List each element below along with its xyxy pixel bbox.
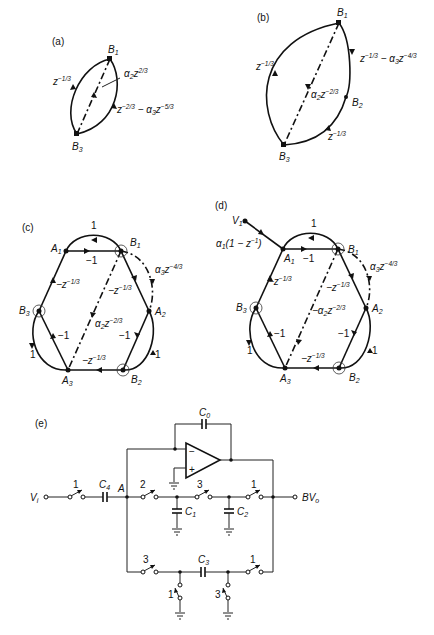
label-c3: C3 bbox=[198, 554, 209, 566]
switch-phase1-ground bbox=[174, 583, 182, 600]
switch-label: 1 bbox=[73, 479, 79, 490]
node-a2 bbox=[364, 306, 369, 311]
arrow-down-dashed bbox=[91, 92, 97, 98]
label-a1: A1 bbox=[50, 243, 62, 255]
node-b1 bbox=[336, 247, 341, 252]
panel-c: (c) bbox=[19, 220, 183, 387]
label-a3: A3 bbox=[279, 373, 291, 385]
label-b3: B3 bbox=[19, 305, 30, 317]
switch-phase3 bbox=[195, 490, 212, 499]
switch-phase3-bottom bbox=[141, 565, 158, 574]
gain-m1-a3b3: −1 bbox=[58, 330, 70, 341]
edge-b3-b1 bbox=[71, 59, 110, 134]
label-c2: C2 bbox=[237, 506, 248, 518]
figure-svg: (a) B1 B3 z−1/3 α2z2/3 z−2/3 − α3z−5/3 (… bbox=[0, 0, 434, 635]
edge-b2-b3 bbox=[284, 97, 346, 145]
label-a: A bbox=[117, 483, 125, 494]
node-b1 bbox=[107, 56, 112, 61]
label-b3: B3 bbox=[72, 141, 83, 153]
gain-alpha2: α2z−2/3 bbox=[95, 317, 123, 330]
edge-b1-a3-dashed bbox=[68, 251, 121, 370]
gain-input: α1(1 − z−1) bbox=[216, 237, 262, 250]
gain-1-b2a2: 1 bbox=[155, 349, 161, 360]
gain-malpha2: −α2z−2/3 bbox=[312, 304, 346, 317]
label-b1: B1 bbox=[108, 44, 119, 56]
arrow-a1-b1 bbox=[84, 248, 90, 254]
label-b3: B3 bbox=[279, 151, 290, 163]
panel-e-label: (e) bbox=[35, 418, 47, 429]
switch-label: 3 bbox=[143, 554, 149, 565]
panel-b: (b) B1 B2 B3 z−1/3 α2z−2/3 z−1/3 − α3z−4… bbox=[255, 7, 417, 163]
arrow-up bbox=[70, 84, 76, 90]
gain-z-1-3-minus-alpha3: z−1/3 − α3z−4/3 bbox=[359, 52, 417, 65]
arrow-up bbox=[272, 70, 278, 76]
label-b3: B3 bbox=[236, 302, 247, 314]
panel-c-label: (c) bbox=[22, 222, 34, 233]
switch-label: 2 bbox=[140, 479, 146, 490]
arrow-top-arc bbox=[91, 237, 97, 243]
switch-phase3-ground bbox=[222, 583, 230, 600]
node-v1 bbox=[243, 219, 248, 224]
label-b1: B1 bbox=[348, 244, 359, 256]
edge-b1-b3 bbox=[77, 59, 117, 134]
node-b3 bbox=[254, 306, 259, 311]
label-b2: B2 bbox=[352, 97, 363, 109]
switch-phase1-bottom bbox=[246, 565, 263, 574]
arrow-down-right bbox=[349, 49, 355, 55]
wire-a-to-minus bbox=[127, 449, 186, 497]
label-b2: B2 bbox=[131, 374, 142, 386]
gain-mz-b1a2: −z−1/3 bbox=[326, 281, 350, 293]
label-a2: A2 bbox=[154, 306, 166, 318]
gain-1-top: 1 bbox=[91, 220, 97, 231]
panel-a-label: (a) bbox=[52, 36, 64, 47]
terminal-bvo bbox=[293, 495, 297, 499]
node-b2 bbox=[337, 366, 342, 371]
label-b1: B1 bbox=[130, 237, 141, 249]
label-a2: A2 bbox=[371, 303, 383, 315]
switch-phase1-input bbox=[68, 490, 85, 499]
node-b3 bbox=[281, 142, 286, 147]
opamp-plus: + bbox=[189, 464, 195, 475]
node-a1 bbox=[64, 249, 69, 254]
arrow-b2-a3 bbox=[313, 365, 319, 371]
node-b2 bbox=[121, 368, 126, 373]
node-a3 bbox=[283, 366, 288, 371]
arrow-top-arc bbox=[308, 235, 314, 241]
gain-m1-a1b1: −1 bbox=[303, 253, 315, 264]
gain-1-b3a3: 1 bbox=[247, 345, 253, 356]
gain-1-b3a3: 1 bbox=[30, 349, 36, 360]
ground-icon bbox=[224, 529, 234, 535]
arrow-b2-a3 bbox=[96, 367, 102, 373]
switch-label: 1 bbox=[168, 589, 174, 600]
gain-mz-b3a1: −z−1/3 bbox=[56, 278, 80, 290]
gain-1-top: 1 bbox=[311, 218, 317, 229]
edge-b1-a1 bbox=[66, 235, 121, 251]
node-a1 bbox=[281, 247, 286, 252]
gain-z-1-3: z−1/3 bbox=[52, 75, 71, 87]
wire-plus-ground bbox=[174, 468, 186, 482]
gain-mz-b2a3: −z−1/3 bbox=[82, 354, 106, 366]
switch-phase1-output bbox=[246, 490, 263, 499]
node-out bbox=[271, 495, 275, 499]
panel-a: (a) B1 B3 z−1/3 α2z2/3 z−2/3 − α3z−5/3 bbox=[52, 36, 174, 153]
gain-mz-b3a1: −z−1/3 bbox=[268, 275, 292, 287]
label-c1: C1 bbox=[185, 506, 196, 518]
label-v1: V1 bbox=[232, 215, 243, 227]
arrow-a1-b1 bbox=[301, 246, 307, 252]
gain-alpha3: α3z−4/3 bbox=[155, 263, 183, 276]
node-b3 bbox=[74, 131, 79, 136]
gain-m1-a1b1: −1 bbox=[86, 255, 98, 266]
gain-alpha2-z: α2z2/3 bbox=[124, 67, 148, 80]
edge-b1-a1 bbox=[283, 233, 338, 249]
label-b1: B1 bbox=[337, 7, 348, 19]
switch-label: 3 bbox=[197, 479, 203, 490]
node-b1 bbox=[336, 20, 341, 25]
gain-mz-b1a2: −z−1/3 bbox=[108, 284, 132, 296]
ground-icon bbox=[175, 613, 185, 619]
label-bvo: BVo bbox=[302, 492, 319, 504]
node-b3 bbox=[37, 309, 42, 314]
edge-b1-b2 bbox=[339, 23, 350, 97]
edge-b1-a2 bbox=[121, 251, 149, 311]
label-c4: C4 bbox=[99, 479, 110, 491]
gain-m1-a3b3: −1 bbox=[274, 328, 286, 339]
